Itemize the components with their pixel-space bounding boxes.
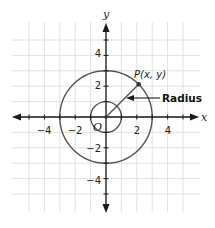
x-axis-left-arrow-icon <box>12 114 21 121</box>
y-tick-label-neg4: −4 <box>86 175 101 186</box>
y-tick-label-2: 2 <box>95 80 101 91</box>
x-tick-label-neg2: −2 <box>68 125 83 136</box>
x-tick-label-neg4: −4 <box>37 125 52 136</box>
point-p <box>136 82 141 87</box>
coordinate-plane: y x O −4 −2 2 4 4 2 −2 −4 P(x, y) Radius <box>0 0 215 228</box>
y-axis-up-arrow-icon <box>103 23 110 32</box>
x-tick-label-2: 2 <box>134 125 140 136</box>
y-tick-label-neg2: −2 <box>86 143 101 154</box>
x-axis-right-arrow-icon <box>190 114 199 121</box>
origin-label: O <box>93 121 102 134</box>
origin-point <box>104 115 108 119</box>
point-p-label: P(x, y) <box>134 69 166 80</box>
y-axis-label: y <box>102 8 110 21</box>
x-tick-label-4: 4 <box>165 125 171 136</box>
y-axis-down-arrow-icon <box>103 204 110 213</box>
x-axis-label: x <box>201 111 208 124</box>
radius-label: Radius <box>162 92 202 104</box>
y-tick-label-4: 4 <box>95 48 101 59</box>
